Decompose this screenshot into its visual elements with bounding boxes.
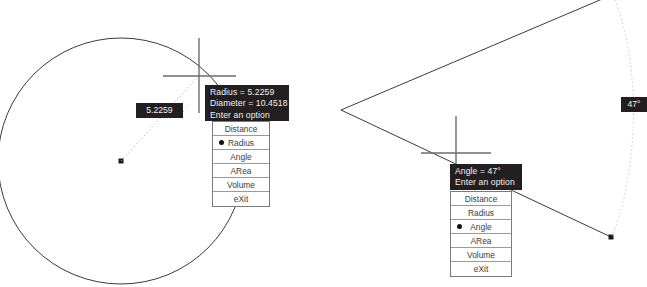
tooltip-prompt-line: Enter an option: [210, 110, 284, 121]
menu-item-volume[interactable]: Volume: [451, 248, 511, 262]
radius-value-tag[interactable]: 5.2259: [136, 103, 183, 118]
drawing-canvas: 5.2259 Radius = 5.2259 Diameter = 10.451…: [0, 0, 647, 287]
menu-item-label: ARea: [451, 234, 511, 248]
tooltip-diameter-line: Diameter = 10.4518: [210, 98, 284, 109]
angle-endpoint-marker: [609, 235, 614, 240]
menu-item-angle[interactable]: Angle: [451, 220, 511, 234]
menu-item-label: Volume: [213, 178, 269, 192]
angle-ray-upper: [341, 0, 607, 110]
menu-item-label: Distance: [451, 192, 511, 206]
right-option-menu[interactable]: Distance Radius Angle ARea Volume eXit: [450, 191, 512, 277]
tooltip-prompt-line: Enter an option: [455, 177, 517, 188]
left-tag-leader: [183, 104, 190, 112]
menu-item-radius[interactable]: Radius: [213, 136, 269, 150]
tooltip-radius-line: Radius = 5.2259: [210, 87, 284, 98]
radius-guide-line: [121, 76, 199, 161]
angle-dynamic-input-tooltip: Angle = 47° Enter an option: [450, 164, 522, 190]
menu-item-label: Angle: [213, 150, 269, 164]
menu-item-area[interactable]: ARea: [213, 164, 269, 178]
menu-item-label: Radius: [451, 206, 511, 220]
menu-item-volume[interactable]: Volume: [213, 178, 269, 192]
radius-dynamic-input-tooltip: Radius = 5.2259 Diameter = 10.4518 Enter…: [205, 85, 289, 121]
menu-item-label: ARea: [213, 164, 269, 178]
menu-item-area[interactable]: ARea: [451, 234, 511, 248]
angle-arc: [612, 0, 634, 236]
menu-item-angle[interactable]: Angle: [213, 150, 269, 164]
tooltip-angle-line: Angle = 47°: [455, 166, 517, 177]
menu-item-distance[interactable]: Distance: [213, 122, 269, 136]
menu-item-distance[interactable]: Distance: [451, 192, 511, 206]
selected-bullet-icon: [457, 224, 462, 229]
geometry-layer: [0, 0, 647, 287]
menu-item-exit[interactable]: eXit: [451, 262, 511, 276]
menu-item-label: Distance: [213, 122, 269, 136]
menu-item-label: eXit: [213, 192, 269, 206]
menu-item-label: eXit: [451, 262, 511, 276]
selected-bullet-icon: [219, 140, 224, 145]
angle-value-tag[interactable]: 47°: [621, 97, 647, 112]
menu-item-radius[interactable]: Radius: [451, 206, 511, 220]
menu-item-label: Volume: [451, 248, 511, 262]
left-option-menu[interactable]: Distance Radius Angle ARea Volume eXit: [212, 121, 270, 207]
menu-item-exit[interactable]: eXit: [213, 192, 269, 206]
